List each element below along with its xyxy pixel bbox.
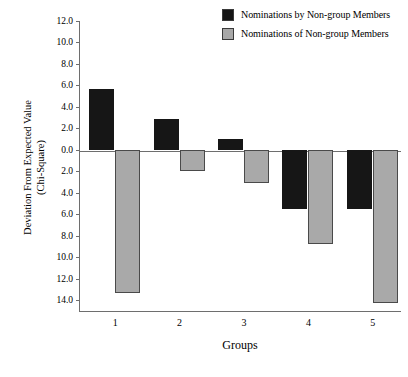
chart-figure: Nominations by Non-group Members Nominat…: [0, 0, 408, 377]
bar-group-4-series-2: [308, 150, 333, 245]
x-tick-label-1: 1: [95, 317, 135, 328]
x-tick-label-5: 5: [353, 317, 393, 328]
y-tick-mark: [76, 42, 79, 43]
legend-swatch-black-icon: [222, 9, 234, 21]
y-tick-mark: [76, 193, 79, 194]
legend-label-nominations-by: Nominations by Non-group Members: [241, 9, 390, 20]
y-tick-mark: [76, 21, 79, 22]
bar-group-2-series-1: [154, 119, 179, 150]
y-tick-mark: [76, 171, 79, 172]
y-tick-label: 10.0: [35, 252, 73, 262]
y-tick-label: 0.0: [35, 145, 73, 155]
bar-group-1-series-1: [89, 89, 114, 150]
y-tick-label: 14.0: [35, 295, 73, 305]
y-tick-mark: [76, 300, 79, 301]
y-tick-label: 12.0: [35, 16, 73, 26]
y-tick-label: 4.0: [35, 188, 73, 198]
x-tick-label-4: 4: [288, 317, 328, 328]
y-tick-mark: [76, 279, 79, 280]
x-tick-label-2: 2: [160, 317, 200, 328]
y-tick-label: 8.0: [35, 231, 73, 241]
y-tick-label: 2.0: [35, 166, 73, 176]
y-tick-mark: [76, 150, 79, 151]
y-tick-label: 6.0: [35, 80, 73, 90]
bar-group-5-series-2: [373, 150, 398, 304]
x-axis-line: [79, 311, 401, 312]
bar-group-2-series-2: [180, 150, 205, 171]
y-tick-label: 4.0: [35, 102, 73, 112]
plot-area: 12.010.08.06.04.02.00.02.04.06.08.010.01…: [79, 21, 401, 311]
y-axis-line: [79, 21, 80, 311]
y-tick-mark: [76, 214, 79, 215]
y-tick-mark: [76, 257, 79, 258]
bar-group-3-series-2: [244, 150, 269, 183]
bar-group-4-series-1: [282, 150, 307, 209]
bar-group-3-series-1: [218, 139, 243, 150]
y-tick-mark: [76, 64, 79, 65]
y-tick-label: 6.0: [35, 209, 73, 219]
y-tick-label: 12.0: [35, 274, 73, 284]
bar-group-1-series-2: [115, 150, 140, 293]
y-tick-label: 8.0: [35, 59, 73, 69]
y-tick-label: 10.0: [35, 37, 73, 47]
bar-group-5-series-1: [347, 150, 372, 209]
y-tick-mark: [76, 85, 79, 86]
x-axis-title: Groups: [79, 338, 401, 353]
x-tick-label-3: 3: [224, 317, 264, 328]
y-axis-title-line-1: Deviation From Expected Value: [22, 78, 35, 258]
y-tick-label: 2.0: [35, 123, 73, 133]
y-tick-mark: [76, 236, 79, 237]
y-tick-mark: [76, 128, 79, 129]
y-tick-mark: [76, 107, 79, 108]
